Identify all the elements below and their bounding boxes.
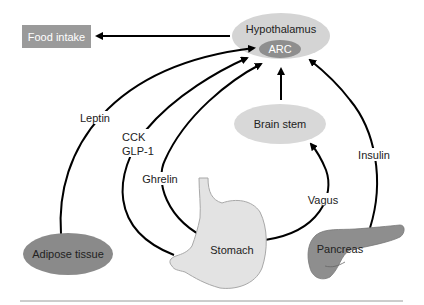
brain-stem-label: Brain stem (254, 118, 307, 130)
vagus-label: Vagus (308, 194, 339, 206)
vagus-arrow (265, 144, 328, 240)
adipose-tissue-node: Adipose tissue (23, 233, 113, 275)
cck-glp1-signal: CCK GLP-1 (120, 129, 154, 157)
food-intake-node: Food intake (22, 25, 91, 48)
glp1-label: GLP-1 (122, 145, 154, 157)
arc-label: ARC (268, 43, 291, 55)
insulin-label: Insulin (358, 149, 390, 161)
leptin-label: Leptin (80, 112, 110, 124)
adipose-tissue-label: Adipose tissue (32, 248, 104, 260)
ghrelin-signal: Ghrelin (140, 172, 180, 185)
cck-label: CCK (122, 131, 146, 143)
stomach-label: Stomach (210, 244, 253, 256)
ghrelin-label: Ghrelin (142, 173, 177, 185)
stomach-node: Stomach (170, 178, 266, 288)
leptin-signal: Leptin (78, 111, 112, 124)
pancreas-node: Pancreas (308, 225, 404, 279)
insulin-signal: Insulin (356, 148, 392, 161)
arc-node: ARC (259, 40, 301, 58)
diagram-canvas: Food intake Hypothalamus ARC Brain stem … (0, 0, 424, 305)
hypothalamus-label: Hypothalamus (246, 23, 317, 35)
vagus-signal: Vagus (306, 193, 340, 206)
food-intake-label: Food intake (28, 31, 85, 43)
brain-stem-node: Brain stem (234, 104, 326, 144)
pancreas-label: Pancreas (317, 243, 364, 255)
